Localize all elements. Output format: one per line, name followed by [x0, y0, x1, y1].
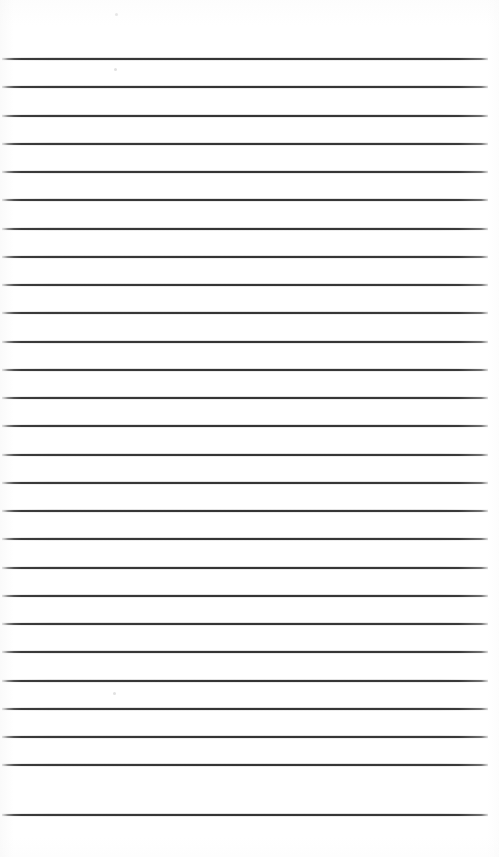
ruled-line [2, 454, 488, 456]
ruled-line-halo-bottom [2, 766, 488, 767]
ruled-line-halo-bottom [2, 816, 488, 817]
ruled-line-halo-bottom [2, 456, 488, 457]
scanned-page [0, 0, 499, 857]
ruled-line-halo-bottom [2, 484, 488, 485]
ruled-line [2, 284, 488, 286]
ruled-line [2, 86, 488, 88]
ruled-line [2, 341, 488, 343]
ruled-line-halo-bottom [2, 427, 488, 428]
ruled-line [2, 115, 488, 117]
ruled-line [2, 567, 488, 569]
ruled-line-halo-bottom [2, 60, 488, 61]
ruled-line-halo-bottom [2, 399, 488, 400]
ruled-line-halo-bottom [2, 597, 488, 598]
ruled-line-halo-bottom [2, 88, 488, 89]
ruled-line [2, 171, 488, 173]
ruled-line [2, 814, 488, 816]
ruled-line [2, 623, 488, 625]
ruled-line-halo-bottom [2, 145, 488, 146]
ruled-line [2, 651, 488, 653]
ruled-line-halo-bottom [2, 258, 488, 259]
ruled-line [2, 482, 488, 484]
ruled-line [2, 736, 488, 738]
ruled-line-halo-bottom [2, 173, 488, 174]
ruled-line-halo-bottom [2, 569, 488, 570]
ruled-line [2, 510, 488, 512]
ruled-line [2, 312, 488, 314]
ruled-line-halo-bottom [2, 682, 488, 683]
ruled-line [2, 228, 488, 230]
ruled-line-halo-bottom [2, 512, 488, 513]
ruled-line [2, 58, 488, 60]
ruled-line [2, 538, 488, 540]
ruled-line-halo-bottom [2, 653, 488, 654]
ruled-line [2, 199, 488, 201]
ruled-line-halo-bottom [2, 314, 488, 315]
ruled-line [2, 256, 488, 258]
ruled-line [2, 595, 488, 597]
ruled-line-halo-bottom [2, 540, 488, 541]
ruled-line-halo-bottom [2, 343, 488, 344]
ruled-line [2, 680, 488, 682]
ruled-line-halo-bottom [2, 371, 488, 372]
ruled-line [2, 708, 488, 710]
ruled-line [2, 764, 488, 766]
ruled-line-halo-bottom [2, 201, 488, 202]
ruled-line-halo-bottom [2, 230, 488, 231]
ruled-line-halo-bottom [2, 738, 488, 739]
ruled-line [2, 369, 488, 371]
ruled-line [2, 397, 488, 399]
ruled-line-halo-bottom [2, 710, 488, 711]
paper-surface [0, 0, 499, 857]
ruled-line [2, 143, 488, 145]
ruled-line-halo-bottom [2, 117, 488, 118]
ruled-line-halo-bottom [2, 286, 488, 287]
ruled-line [2, 425, 488, 427]
ruled-line-halo-bottom [2, 625, 488, 626]
